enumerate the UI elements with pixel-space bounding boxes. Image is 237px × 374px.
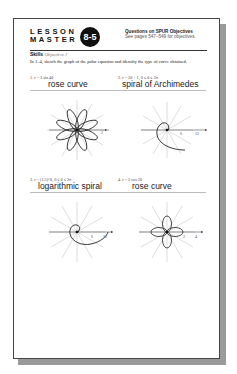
objective-label: Objective J — [44, 52, 67, 57]
answer-field: spiral of Archimedes — [118, 80, 206, 91]
answer-field: logarithmic spiral — [30, 182, 118, 193]
graph-log-spiral: 6 12 — [42, 197, 122, 267]
answer-field: rose curve — [118, 182, 206, 193]
question-3: 3. r = (1.5)^θ, 0 ≤ θ ≤ 2π logarithmic s… — [30, 177, 120, 193]
question-number: 3. — [30, 177, 33, 182]
skills-label: Skills — [30, 51, 43, 57]
title-line-2: MASTER — [30, 36, 77, 44]
svg-text:12: 12 — [195, 131, 199, 136]
graph-archimedes-spiral: 6 12 — [137, 95, 212, 165]
graph-rose-8: 3 — [42, 95, 112, 165]
svg-text:4: 4 — [195, 234, 197, 239]
question-2: 2. r = 2θ + 1, 0 ≤ θ ≤ 2π spiral of Arch… — [118, 75, 208, 91]
worksheet-page: LESSON MASTER 8-5 Questions on SPUR Obje… — [13, 18, 220, 359]
svg-text:6: 6 — [180, 131, 182, 136]
question-number: 2. — [118, 75, 121, 80]
lesson-master-title: LESSON MASTER — [30, 28, 77, 44]
svg-text:12: 12 — [103, 234, 107, 239]
question-number: 1. — [30, 75, 33, 80]
instructions: In 1–4, sketch the graph of the polar eq… — [30, 59, 210, 64]
question-number: 4. — [118, 177, 121, 182]
spur-subtitle: See pages 547–549 for objectives. — [125, 34, 196, 39]
question-1: 1. r = 3 sin 4θ rose curve — [30, 75, 120, 91]
skills-heading: Skills Objective J — [30, 51, 67, 58]
svg-text:3: 3 — [101, 130, 103, 135]
lesson-number-badge: 8-5 — [80, 27, 100, 47]
svg-text:2: 2 — [183, 234, 185, 239]
graph-rose-4: 2 4 — [135, 197, 210, 267]
spur-objectives: Questions on SPUR Objectives See pages 5… — [125, 29, 196, 39]
answer-field: rose curve — [30, 80, 118, 91]
svg-text:6: 6 — [91, 234, 93, 239]
question-4: 4. r = 2 cos 2θ rose curve — [118, 177, 208, 193]
